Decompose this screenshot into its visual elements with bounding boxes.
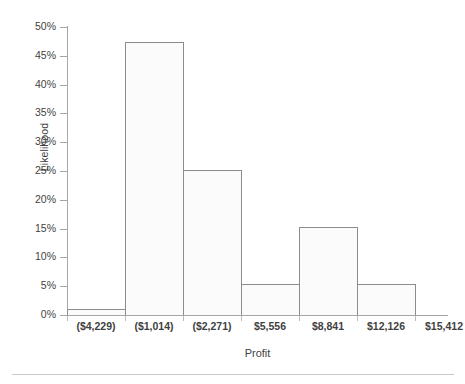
y-tick-label: 15% bbox=[0, 223, 56, 234]
histogram-bar bbox=[241, 284, 300, 315]
y-tick-mark bbox=[60, 200, 67, 201]
y-tick-mark bbox=[60, 286, 67, 287]
histogram-bar bbox=[125, 42, 184, 315]
histogram-chart: Likelihood 50%45%40%35%30%25%20%15%10%5%… bbox=[0, 0, 465, 384]
y-tick-mark bbox=[60, 171, 67, 172]
y-tick-mark bbox=[60, 56, 67, 57]
y-tick-mark bbox=[60, 113, 67, 114]
y-tick-mark bbox=[60, 85, 67, 86]
histogram-bar bbox=[67, 309, 126, 315]
y-tick-label: 50% bbox=[0, 21, 56, 32]
y-tick-mark bbox=[60, 27, 67, 28]
histogram-bar bbox=[357, 284, 416, 315]
y-tick-mark bbox=[60, 257, 67, 258]
y-tick-mark bbox=[60, 315, 67, 316]
x-axis-title: Profit bbox=[67, 347, 448, 359]
y-tick-mark bbox=[60, 229, 67, 230]
y-tick-label: 20% bbox=[0, 194, 56, 205]
histogram-bar bbox=[183, 170, 242, 315]
y-tick-label: 25% bbox=[0, 165, 56, 176]
y-tick-label: 45% bbox=[0, 50, 56, 61]
y-tick-label: 30% bbox=[0, 136, 56, 147]
y-tick-mark bbox=[60, 142, 67, 143]
histogram-bar bbox=[299, 227, 358, 315]
y-tick-label: 40% bbox=[0, 79, 56, 90]
y-tick-label: 35% bbox=[0, 107, 56, 118]
y-tick-label: 0% bbox=[0, 309, 56, 320]
y-tick-label: 10% bbox=[0, 251, 56, 262]
x-tick-label: $15,412 bbox=[404, 320, 465, 332]
y-tick-label: 5% bbox=[0, 280, 56, 291]
y-axis-line bbox=[67, 26, 68, 316]
bottom-divider bbox=[12, 374, 454, 375]
